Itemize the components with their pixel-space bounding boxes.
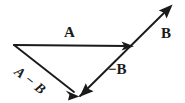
vector-b-shaft — [80, 10, 168, 97]
vector-subtraction-figure: A B −B A − B — [0, 0, 185, 103]
vector-b-label: B — [161, 26, 171, 41]
vector-a-shaft — [14, 45, 128, 46]
vector-a-arrow — [14, 42, 134, 51]
vector-neg-b-label: −B — [108, 62, 127, 77]
vector-a-minus-b-arrowhead — [66, 91, 80, 101]
vector-b-arrow — [80, 5, 173, 96]
vector-a-label: A — [64, 25, 75, 40]
